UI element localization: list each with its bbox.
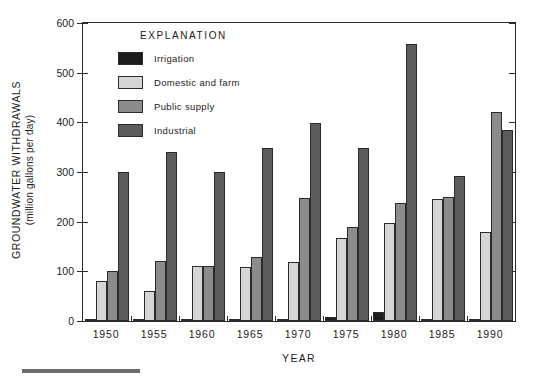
bar-1980-irrigation [373,312,384,321]
bar-1980-public-supply [395,203,406,321]
x-tick-label-1990: 1990 [477,328,504,340]
bar-1975-public-supply [347,227,358,321]
y-tick-inner-300 [83,172,88,173]
bar-1950-domestic-and-farm [96,281,107,321]
bar-1965-public-supply [251,257,262,321]
x-tick-label-1955: 1955 [141,328,168,340]
bar-1955-industrial [166,152,177,321]
legend-item-public-supply: Public supply [118,96,298,116]
bar-1965-domestic-and-farm [240,267,251,321]
legend-label-1: Domestic and farm [154,77,240,88]
y-tick-inner-100 [83,271,88,272]
chart-figure: GROUNDWATER WITHDRAWALS (million gallons… [0,0,543,380]
legend-rows: IrrigationDomestic and farmPublic supply… [118,48,298,140]
bar-1985-public-supply [443,197,454,321]
bar-1985-industrial [454,176,465,321]
y-tick-label-600: 600 [56,17,74,29]
y-tick-inner-400 [83,122,88,123]
legend-item-domestic-and-farm: Domestic and farm [118,72,298,92]
y-tick-label-200: 200 [56,216,74,228]
bar-1970-irrigation [277,319,288,321]
y-tick-right-400 [509,122,515,123]
legend-swatch-icon-2 [118,100,143,113]
bar-1970-public-supply [299,198,310,321]
x-tick-label-1985: 1985 [429,328,456,340]
x-tick-label-1970: 1970 [285,328,312,340]
bar-1990-industrial [502,130,513,321]
bar-1985-domestic-and-farm [432,199,443,321]
y-tick-inner-0 [83,321,88,322]
legend-label-0: Irrigation [154,53,194,64]
bar-1990-domestic-and-farm [480,232,491,321]
y-axis-title-line1: GROUNDWATER WITHDRAWALS [10,81,23,259]
legend-swatch-icon-1 [118,76,143,89]
bar-1950-industrial [118,172,129,321]
y-tick-right-500 [509,73,515,74]
legend-item-industrial: Industrial [118,120,298,140]
bar-1975-domestic-and-farm [336,238,347,321]
legend-title: EXPLANATION [140,30,298,41]
bar-1955-domestic-and-farm [144,291,155,321]
bar-1985-irrigation [421,319,432,321]
bar-1970-industrial [310,123,321,321]
x-tick-label-1960: 1960 [189,328,216,340]
bar-1965-irrigation [229,319,240,321]
bar-1960-industrial [214,172,225,321]
legend-swatch-icon-0 [118,52,143,65]
y-tick-label-500: 500 [56,67,74,79]
y-tick-inner-500 [83,73,88,74]
legend-label-3: Industrial [154,125,196,136]
bar-1955-public-supply [155,261,166,321]
bar-1960-public-supply [203,266,214,321]
legend-label-2: Public supply [154,101,215,112]
y-tick-right-0 [509,321,515,322]
bar-1990-public-supply [491,112,502,321]
y-tick-inner-600 [83,23,88,24]
bar-1950-public-supply [107,271,118,321]
bar-1975-industrial [358,148,369,321]
bar-1980-industrial [406,44,417,321]
legend-swatch-icon-3 [118,124,143,137]
footer-rule [22,369,140,373]
x-tick-label-1980: 1980 [381,328,408,340]
y-tick-label-0: 0 [68,315,74,327]
bar-1950-irrigation [85,319,96,321]
bar-1990-irrigation [469,319,480,321]
x-tick-label-1975: 1975 [333,328,360,340]
legend-item-irrigation: Irrigation [118,48,298,68]
bar-1955-irrigation [133,319,144,321]
bar-1960-irrigation [181,319,192,321]
y-tick-label-100: 100 [56,265,74,277]
y-tick-label-300: 300 [56,166,74,178]
y-tick-right-600 [509,23,515,24]
x-axis-title: YEAR [82,352,516,364]
bar-1980-domestic-and-farm [384,223,395,321]
bar-1970-domestic-and-farm [288,262,299,321]
bar-1975-irrigation [325,317,336,321]
y-axis-title: GROUNDWATER WITHDRAWALS (million gallons… [6,0,40,340]
y-axis-title-line2: (million gallons per day) [23,81,36,259]
x-tick-label-1950: 1950 [93,328,120,340]
bar-1965-industrial [262,148,273,321]
bar-1960-domestic-and-farm [192,266,203,321]
x-tick-label-1965: 1965 [237,328,264,340]
legend: EXPLANATION IrrigationDomestic and farmP… [118,30,298,144]
y-tick-label-400: 400 [56,116,74,128]
y-tick-inner-200 [83,222,88,223]
